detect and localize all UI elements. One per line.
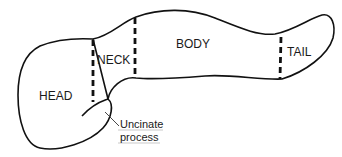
label-tail: TAIL bbox=[287, 46, 311, 58]
label-process: process bbox=[120, 132, 159, 143]
label-uncinate: Uncinate bbox=[120, 119, 163, 130]
label-head: HEAD bbox=[39, 90, 72, 102]
label-neck: NECK bbox=[97, 54, 130, 66]
body-tail-boundary bbox=[280, 37, 281, 79]
pancreas-diagram bbox=[0, 0, 342, 157]
label-body: BODY bbox=[176, 38, 210, 50]
pancreas-outline bbox=[18, 10, 334, 149]
